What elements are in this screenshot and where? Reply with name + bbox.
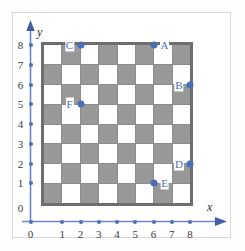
y-axis-tick-dot — [29, 43, 33, 47]
x-axis-tick-dot — [97, 220, 101, 224]
point-label-d: D — [174, 157, 184, 170]
x-axis-tick-dot — [170, 220, 174, 224]
y-axis-tick-label: 4 — [18, 119, 24, 130]
y-axis-tick-label: 6 — [18, 79, 24, 90]
y-axis-tick-label: 2 — [18, 158, 24, 169]
point-marker-c — [77, 42, 84, 49]
point-label-e: E — [160, 177, 169, 190]
y-axis-tick-label: 0 — [18, 202, 24, 213]
y-axis-tick-label: 5 — [18, 99, 24, 110]
y-axis-tick-dot — [29, 83, 33, 87]
x-axis-tick-label: 6 — [151, 228, 157, 239]
y-axis-tick-label: 1 — [18, 178, 24, 189]
y-axis-tick-label: 7 — [18, 59, 24, 70]
x-axis-tick-dot — [115, 220, 119, 224]
y-axis-tick-dot — [29, 122, 33, 126]
point-label-b: B — [174, 78, 183, 91]
figure-screenshot: 012345678012345678ABCDEF y x — [0, 0, 245, 251]
point-marker-a — [150, 42, 157, 49]
y-axis-tick-label: 3 — [18, 138, 24, 149]
y-axis-tick-dot — [29, 142, 33, 146]
x-axis-tick-label: 0 — [28, 228, 34, 239]
y-axis-tick-dot — [29, 63, 33, 67]
x-axis-tick-label: 5 — [133, 228, 139, 239]
x-axis-tick-label: 3 — [96, 228, 102, 239]
y-axis-tick-label: 8 — [18, 40, 24, 51]
y-axis-label: y — [37, 26, 42, 38]
x-axis-tick-dot — [152, 220, 156, 224]
x-axis-tick-dot — [79, 220, 83, 224]
x-axis-tick-label: 1 — [60, 228, 66, 239]
y-axis-tick-dot — [29, 162, 33, 166]
x-axis-tick-label: 7 — [169, 228, 175, 239]
y-axis-tick-dot — [29, 102, 33, 106]
point-label-c: C — [65, 39, 74, 52]
y-axis-tick-dot — [29, 181, 33, 185]
point-label-a: A — [160, 39, 170, 52]
point-label-f: F — [65, 98, 73, 111]
x-axis-tick-label: 8 — [187, 228, 193, 239]
x-axis-label: x — [207, 201, 212, 213]
point-marker-e — [150, 180, 157, 187]
point-marker-f — [77, 101, 84, 108]
x-axis-tick-dot — [29, 220, 33, 224]
x-axis-tick-dot — [133, 220, 137, 224]
x-axis-tick-dot — [60, 220, 64, 224]
x-axis-tick-label: 2 — [78, 228, 84, 239]
x-axis-tick-dot — [188, 220, 192, 224]
x-axis-tick-label: 4 — [114, 228, 120, 239]
point-marker-b — [187, 81, 194, 88]
point-marker-d — [187, 160, 194, 167]
